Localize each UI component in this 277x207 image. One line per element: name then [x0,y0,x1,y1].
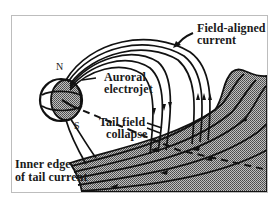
label-inner-edge-2: of tail current [15,172,88,183]
label-auroral-electrojet-2: electrojet [104,84,153,95]
label-inner-edge-1: Inner edge [15,159,71,170]
label-north-pole: N [56,61,63,72]
label-field-aligned-current-2: current [197,35,236,46]
field-aligned-current-arrows [152,93,212,115]
label-tail-field-collapse-2: collapse [106,129,147,140]
label-south-pole: S [74,120,80,131]
